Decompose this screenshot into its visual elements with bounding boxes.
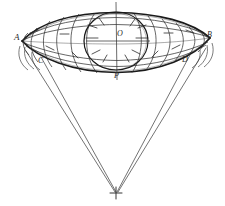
geometric-diagram [0,0,225,206]
converging-line-right-inner [117,55,190,192]
tick-mark [46,46,54,50]
tick-mark [92,50,100,54]
tick-mark [125,55,129,62]
outer-arc-right [204,43,213,67]
diagram-canvas: A B C D O P [0,0,225,206]
converging-line-left-inner [41,57,116,192]
point-label-c: C [38,57,43,65]
outer-arc-left [19,46,28,70]
tick-mark [103,55,107,62]
converging-line-right-outer [118,48,206,192]
point-label-o: O [117,30,123,38]
tick-mark [132,50,140,54]
point-label-p: P [114,72,119,80]
point-label-a: A [14,33,20,42]
point-label-d: D [182,56,188,64]
point-label-b: B [207,31,212,39]
tick-mark [99,18,104,25]
tick-mark [172,45,180,49]
